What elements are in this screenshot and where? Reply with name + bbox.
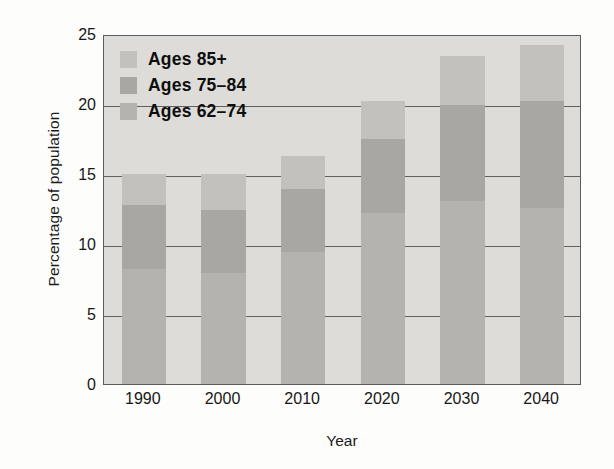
bar-segment[interactable] bbox=[440, 201, 485, 384]
bar-segment[interactable] bbox=[440, 105, 485, 200]
y-tick-label: 20 bbox=[40, 96, 96, 114]
bar-segment[interactable] bbox=[122, 269, 167, 384]
bar-segment[interactable] bbox=[122, 205, 167, 269]
bar-segment[interactable] bbox=[122, 174, 167, 205]
bar-segment[interactable] bbox=[520, 101, 565, 207]
legend-label: Ages 85+ bbox=[148, 49, 227, 70]
legend-item[interactable]: Ages 75–84 bbox=[120, 72, 246, 98]
plot-area: Ages 85+Ages 75–84Ages 62–74 bbox=[103, 35, 581, 385]
y-tick-label: 15 bbox=[40, 166, 96, 184]
bar-segment[interactable] bbox=[201, 174, 246, 210]
x-tick-label: 2020 bbox=[342, 390, 422, 408]
bar-segment[interactable] bbox=[281, 189, 326, 252]
x-tick-label: 2000 bbox=[183, 390, 263, 408]
y-tick-label: 10 bbox=[40, 236, 96, 254]
bar-segment[interactable] bbox=[281, 252, 326, 384]
x-axis-tick-labels: 199020002010202020302040 bbox=[103, 390, 581, 416]
bar-group[interactable] bbox=[281, 156, 326, 384]
legend-item[interactable]: Ages 62–74 bbox=[120, 98, 246, 124]
bar-group[interactable] bbox=[520, 45, 565, 384]
y-axis-tick-labels: 0510152025 bbox=[36, 0, 96, 469]
y-tick-label: 5 bbox=[40, 306, 96, 324]
legend-label: Ages 62–74 bbox=[148, 101, 246, 122]
y-tick-label: 25 bbox=[40, 26, 96, 44]
bar-group[interactable] bbox=[361, 101, 406, 384]
chart-legend: Ages 85+Ages 75–84Ages 62–74 bbox=[120, 46, 246, 124]
bar-segment[interactable] bbox=[281, 156, 326, 190]
legend-item[interactable]: Ages 85+ bbox=[120, 46, 246, 72]
bar-group[interactable] bbox=[201, 174, 246, 384]
bar-segment[interactable] bbox=[361, 139, 406, 213]
x-tick-label: 2040 bbox=[501, 390, 581, 408]
bar-segment[interactable] bbox=[440, 56, 485, 105]
x-tick-label: 2010 bbox=[262, 390, 342, 408]
bar-segment[interactable] bbox=[201, 210, 246, 273]
bar-segment[interactable] bbox=[520, 208, 565, 384]
chart-figure: Percentage of population 0510152025 Ages… bbox=[0, 0, 614, 469]
y-tick-label: 0 bbox=[40, 376, 96, 394]
bar-segment[interactable] bbox=[361, 213, 406, 384]
bar-segment[interactable] bbox=[520, 45, 565, 101]
x-axis-title: Year bbox=[103, 432, 581, 450]
bar-group[interactable] bbox=[440, 56, 485, 384]
legend-swatch-icon bbox=[120, 77, 137, 94]
legend-label: Ages 75–84 bbox=[148, 75, 246, 96]
x-tick-label: 1990 bbox=[103, 390, 183, 408]
legend-swatch-icon bbox=[120, 103, 137, 120]
bar-segment[interactable] bbox=[361, 101, 406, 139]
legend-swatch-icon bbox=[120, 51, 137, 68]
x-tick-label: 2030 bbox=[422, 390, 502, 408]
bar-segment[interactable] bbox=[201, 273, 246, 384]
bar-group[interactable] bbox=[122, 174, 167, 384]
